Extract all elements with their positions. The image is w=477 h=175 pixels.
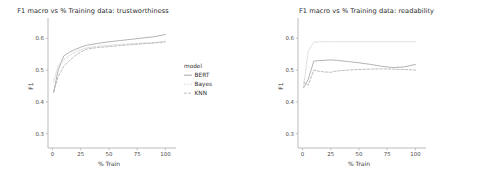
plot-area-right: 0.30.40.50.60255075100% TrainF1 xyxy=(240,0,477,175)
facet-trustworthiness: F1 macro vs % Training data: trustworthi… xyxy=(0,0,240,175)
series-line-bert xyxy=(304,60,416,88)
y-tick-label: 0.5 xyxy=(285,67,294,73)
x-tick-label: 0 xyxy=(301,151,305,157)
series-line-knn xyxy=(304,69,416,86)
series-line-knn xyxy=(54,42,166,92)
x-tick-label: 75 xyxy=(384,151,391,157)
x-tick-label: 0 xyxy=(51,151,55,157)
legend-title: model xyxy=(184,63,202,69)
facet-readability: F1 macro vs % Training data: readability… xyxy=(240,0,477,175)
x-axis-title: % Train xyxy=(348,160,370,167)
series-line-bayes xyxy=(304,42,416,87)
y-tick-label: 0.3 xyxy=(285,131,294,137)
y-tick-label: 0.5 xyxy=(35,67,44,73)
y-tick-label: 0.6 xyxy=(285,35,294,41)
y-axis-title: F1 xyxy=(27,82,34,89)
legend-label-bert[interactable]: BERT xyxy=(195,72,210,78)
x-tick-label: 100 xyxy=(160,151,171,157)
y-tick-label: 0.3 xyxy=(35,131,44,137)
series-line-bayes xyxy=(54,41,166,82)
legend-label-bayes[interactable]: Bayes xyxy=(195,81,213,88)
x-tick-label: 25 xyxy=(77,151,84,157)
figure-canvas: F1 macro vs % Training data: trustworthi… xyxy=(0,0,477,175)
y-tick-label: 0.4 xyxy=(35,99,44,105)
y-axis-title: F1 xyxy=(277,82,284,89)
x-tick-label: 100 xyxy=(410,151,421,157)
y-tick-label: 0.4 xyxy=(285,99,294,105)
x-axis-title: % Train xyxy=(98,160,120,167)
legend-label-knn[interactable]: KNN xyxy=(195,90,207,96)
x-tick-label: 75 xyxy=(134,151,141,157)
x-tick-label: 50 xyxy=(356,151,363,157)
y-tick-label: 0.6 xyxy=(35,35,44,41)
x-tick-label: 25 xyxy=(327,151,334,157)
x-tick-label: 50 xyxy=(106,151,113,157)
plot-area-left: 0.30.40.50.60255075100% TrainF1modelBERT… xyxy=(0,0,240,175)
